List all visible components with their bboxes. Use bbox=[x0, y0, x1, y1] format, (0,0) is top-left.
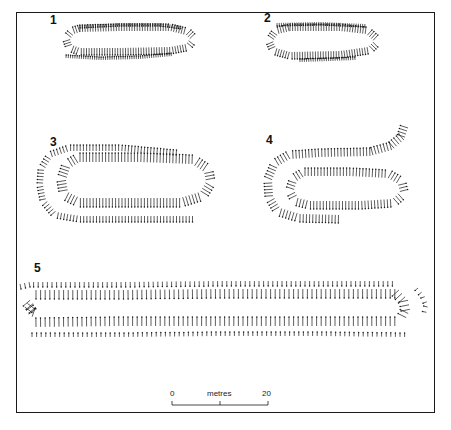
figure-label-2: 2 bbox=[264, 12, 271, 24]
scale-unit-label: metres bbox=[207, 390, 231, 398]
scale-bar bbox=[172, 401, 268, 405]
figure-label-5: 5 bbox=[34, 262, 41, 274]
figure-label-4: 4 bbox=[266, 134, 273, 146]
scale-end-label: 20 bbox=[262, 390, 271, 398]
figure-label-3: 3 bbox=[50, 136, 57, 148]
figure-label-1: 1 bbox=[50, 14, 57, 26]
scale-start-label: 0 bbox=[170, 390, 174, 398]
stake-rows bbox=[20, 22, 428, 337]
stake-plan-drawing bbox=[0, 0, 451, 430]
